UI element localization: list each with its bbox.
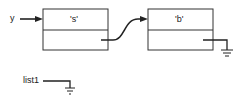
null-ground-icon: [203, 40, 233, 56]
node-2-value: 'b': [175, 15, 183, 24]
list1-label: list1: [23, 76, 39, 85]
node-1-value: 's': [70, 15, 78, 24]
list1-null-ground-icon: [43, 81, 75, 94]
y-pointer-arrow: [20, 16, 43, 22]
next-link-arrowhead: [140, 16, 148, 22]
y-pointer-label: y: [10, 14, 15, 23]
